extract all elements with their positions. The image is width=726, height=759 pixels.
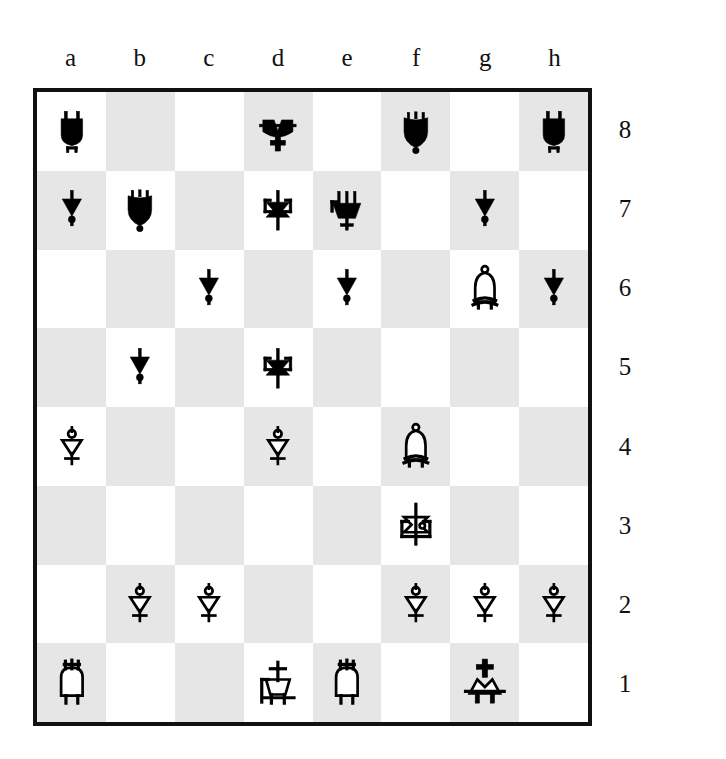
white-pawn-icon[interactable] bbox=[389, 573, 443, 634]
white-king-icon[interactable] bbox=[458, 652, 512, 713]
square-b5[interactable] bbox=[106, 328, 175, 407]
square-a2[interactable] bbox=[37, 565, 106, 644]
square-f2[interactable] bbox=[381, 565, 450, 644]
file-label-f: f bbox=[382, 38, 451, 78]
square-c5[interactable] bbox=[175, 328, 244, 407]
white-pawn-icon[interactable] bbox=[182, 573, 236, 634]
black-king-icon[interactable] bbox=[251, 101, 305, 162]
square-g5[interactable] bbox=[450, 328, 519, 407]
square-b1[interactable] bbox=[106, 643, 175, 722]
file-label-c: c bbox=[174, 38, 243, 78]
white-pawn-icon[interactable] bbox=[251, 416, 305, 477]
square-c1[interactable] bbox=[175, 643, 244, 722]
square-f8[interactable] bbox=[381, 92, 450, 171]
square-h7[interactable] bbox=[519, 171, 588, 250]
rank-label-2: 2 bbox=[600, 566, 650, 645]
square-e7[interactable] bbox=[313, 171, 382, 250]
square-c8[interactable] bbox=[175, 92, 244, 171]
square-a5[interactable] bbox=[37, 328, 106, 407]
square-c7[interactable] bbox=[175, 171, 244, 250]
square-b8[interactable] bbox=[106, 92, 175, 171]
square-f6[interactable] bbox=[381, 250, 450, 329]
square-g7[interactable] bbox=[450, 171, 519, 250]
square-e8[interactable] bbox=[313, 92, 382, 171]
square-h2[interactable] bbox=[519, 565, 588, 644]
square-c3[interactable] bbox=[175, 486, 244, 565]
white-bishop-icon[interactable] bbox=[389, 416, 443, 477]
square-d6[interactable] bbox=[244, 250, 313, 329]
square-a6[interactable] bbox=[37, 250, 106, 329]
square-e2[interactable] bbox=[313, 565, 382, 644]
white-pawn-icon[interactable] bbox=[527, 573, 581, 634]
square-h5[interactable] bbox=[519, 328, 588, 407]
square-g1[interactable] bbox=[450, 643, 519, 722]
square-b4[interactable] bbox=[106, 407, 175, 486]
square-a8[interactable] bbox=[37, 92, 106, 171]
square-f1[interactable] bbox=[381, 643, 450, 722]
square-a4[interactable] bbox=[37, 407, 106, 486]
square-e5[interactable] bbox=[313, 328, 382, 407]
rank-label-1: 1 bbox=[600, 645, 650, 724]
square-b6[interactable] bbox=[106, 250, 175, 329]
square-g3[interactable] bbox=[450, 486, 519, 565]
square-c4[interactable] bbox=[175, 407, 244, 486]
black-pawn-icon[interactable] bbox=[182, 258, 236, 319]
white-knight-icon[interactable] bbox=[389, 494, 443, 555]
square-d8[interactable] bbox=[244, 92, 313, 171]
square-h6[interactable] bbox=[519, 250, 588, 329]
white-pawn-icon[interactable] bbox=[45, 416, 99, 477]
square-g6[interactable] bbox=[450, 250, 519, 329]
square-a1[interactable] bbox=[37, 643, 106, 722]
square-g2[interactable] bbox=[450, 565, 519, 644]
square-b2[interactable] bbox=[106, 565, 175, 644]
square-g4[interactable] bbox=[450, 407, 519, 486]
white-queen-icon[interactable] bbox=[251, 652, 305, 713]
rank-label-7: 7 bbox=[600, 169, 650, 248]
square-e1[interactable] bbox=[313, 643, 382, 722]
black-rook-icon[interactable] bbox=[45, 101, 99, 162]
square-h3[interactable] bbox=[519, 486, 588, 565]
square-a3[interactable] bbox=[37, 486, 106, 565]
white-rook-icon[interactable] bbox=[45, 652, 99, 713]
black-pawn-icon[interactable] bbox=[45, 179, 99, 240]
white-pawn-icon[interactable] bbox=[458, 573, 512, 634]
black-bishop-icon[interactable] bbox=[389, 101, 443, 162]
black-pawn-icon[interactable] bbox=[527, 258, 581, 319]
black-pawn-icon[interactable] bbox=[458, 179, 512, 240]
square-f7[interactable] bbox=[381, 171, 450, 250]
square-b3[interactable] bbox=[106, 486, 175, 565]
square-d7[interactable] bbox=[244, 171, 313, 250]
square-b7[interactable] bbox=[106, 171, 175, 250]
square-g8[interactable] bbox=[450, 92, 519, 171]
black-queen-icon[interactable] bbox=[320, 179, 374, 240]
square-d2[interactable] bbox=[244, 565, 313, 644]
square-f5[interactable] bbox=[381, 328, 450, 407]
black-rook-icon[interactable] bbox=[527, 101, 581, 162]
square-d5[interactable] bbox=[244, 328, 313, 407]
black-pawn-icon[interactable] bbox=[320, 258, 374, 319]
square-f4[interactable] bbox=[381, 407, 450, 486]
square-c2[interactable] bbox=[175, 565, 244, 644]
black-knight-icon[interactable] bbox=[251, 337, 305, 398]
white-pawn-icon[interactable] bbox=[113, 573, 167, 634]
black-pawn-icon[interactable] bbox=[113, 337, 167, 398]
square-h4[interactable] bbox=[519, 407, 588, 486]
square-h8[interactable] bbox=[519, 92, 588, 171]
square-e3[interactable] bbox=[313, 486, 382, 565]
square-f3[interactable] bbox=[381, 486, 450, 565]
square-e4[interactable] bbox=[313, 407, 382, 486]
black-knight-icon[interactable] bbox=[251, 179, 305, 240]
file-label-b: b bbox=[105, 38, 174, 78]
white-rook-icon[interactable] bbox=[320, 652, 374, 713]
white-bishop-icon[interactable] bbox=[458, 258, 512, 319]
square-d3[interactable] bbox=[244, 486, 313, 565]
chess-board[interactable] bbox=[37, 92, 588, 722]
square-h1[interactable] bbox=[519, 643, 588, 722]
square-c6[interactable] bbox=[175, 250, 244, 329]
black-bishop-icon[interactable] bbox=[113, 179, 167, 240]
square-d4[interactable] bbox=[244, 407, 313, 486]
square-e6[interactable] bbox=[313, 250, 382, 329]
square-a7[interactable] bbox=[37, 171, 106, 250]
square-d1[interactable] bbox=[244, 643, 313, 722]
rank-label-4: 4 bbox=[600, 407, 650, 486]
